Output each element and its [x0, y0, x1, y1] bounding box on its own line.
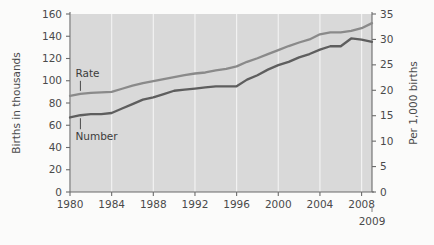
y-axis-left-tick-label: 100	[42, 74, 62, 86]
y-axis-left-tick-label: 0	[55, 186, 62, 198]
end-year-label: 2009	[359, 215, 386, 227]
y-axis-right-tick-label: 30	[380, 33, 393, 45]
y-axis-left-title: Births in thousands	[10, 52, 22, 153]
x-axis-tick-label: 2008	[348, 198, 375, 210]
x-axis-tick-label: 2004	[307, 198, 334, 210]
y-axis-right-title: Per 1,000 births	[407, 61, 419, 145]
chart-figure: 020406080100120140160 05101520253035 198…	[0, 0, 434, 245]
x-axis-tick-label: 1984	[98, 198, 125, 210]
x-axis-tick-label: 1988	[140, 198, 167, 210]
y-axis-right-tick-label: 10	[380, 135, 393, 147]
y-axis-left-tick-label: 160	[42, 8, 62, 20]
y-axis-right-tick-label: 25	[380, 58, 393, 70]
rate-annotation-label: Rate	[75, 67, 99, 79]
births-dual-axis-line-chart: 020406080100120140160 05101520253035 198…	[0, 0, 434, 245]
y-axis-right-tick-label: 0	[380, 186, 387, 198]
x-axis-tick-label: 1992	[182, 198, 209, 210]
y-axis-right-tick-label: 35	[380, 8, 393, 20]
plot-area-background	[70, 14, 372, 192]
x-axis-tick-label: 1980	[57, 198, 84, 210]
y-axis-left-tick-label: 20	[49, 163, 62, 175]
y-axis-right-tick-label: 5	[380, 160, 387, 172]
y-axis-right-tick-label: 15	[380, 109, 393, 121]
y-axis-left-tick-label: 120	[42, 52, 62, 64]
y-axis-right-tick-label: 20	[380, 84, 393, 96]
y-axis-left-tick-label: 60	[49, 119, 62, 131]
x-axis-tick-label: 1996	[223, 198, 250, 210]
number-annotation-label: Number	[75, 130, 118, 142]
y-axis-left-tick-label: 40	[49, 141, 62, 153]
y-axis-left-tick-label: 140	[42, 30, 62, 42]
x-axis-tick-label: 2000	[265, 198, 292, 210]
y-axis-left-tick-label: 80	[49, 97, 62, 109]
